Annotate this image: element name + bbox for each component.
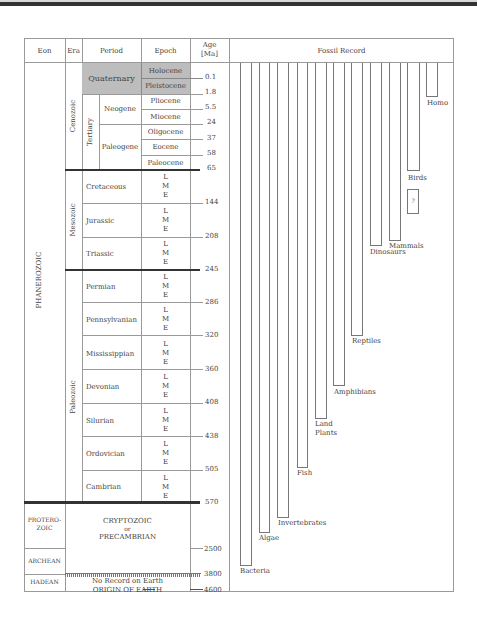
line-408 [82,403,203,404]
line-5.5 [141,109,203,110]
lme-mississippian: LME [141,340,190,367]
lme-cambrian: LME [141,474,190,501]
header-epoch: Epoch [141,47,190,55]
line-505 [82,470,203,471]
age-570: 570 [205,498,218,506]
holocene-divider [141,78,203,79]
bar-homo [426,63,438,97]
birds-uncertain-box: ? [407,189,419,214]
label-bacteria: Bacteria [240,567,270,575]
eon-phanerozoic: PHANEROZOIC [35,245,43,315]
header-eon: Eon [24,47,65,55]
label-amphibians: Amphibians [334,388,376,396]
boundary-570 [24,501,200,504]
eon-archean: ARCHEAN [24,557,65,565]
epoch-pleistocene: Pleistocene [141,82,190,90]
age-0.1: 0.1 [205,73,216,81]
lme-ordovician: LME [141,440,190,467]
no-record-label: No Record on Earth [65,577,190,585]
bar-mammals [389,63,401,241]
period-devonian: Devonian [86,383,119,391]
bar-reptiles [351,63,363,336]
lme-jurassic: LME [141,207,190,234]
line-320 [82,335,203,336]
period-neogene: Neogene [99,105,141,113]
bar-amphibians [333,63,345,386]
lme-triassic: LME [141,240,190,267]
col-line-epoch [190,38,191,592]
lme-devonian: LME [141,373,190,400]
line-58 [141,155,203,156]
line-2500 [24,548,65,549]
origin-of-earth-label: ORIGIN OF EARTH [65,586,190,594]
bar-birds [407,63,420,171]
cryptozoic-label: CRYPTOZOIC [65,517,190,525]
era-cenozoic: Cenozoic [69,91,77,141]
age-208: 208 [205,232,218,240]
bar-fish [297,63,308,468]
label-birds: Birds [408,174,427,182]
lme-pennsylvanian: LME [141,306,190,333]
line-360 [82,369,203,370]
label-fish: Fish [297,469,312,477]
era-tertiary: Tertiary [86,109,94,155]
age-3800: 3800 [204,570,222,578]
cryptozoic-or: or [65,525,190,533]
lme-silurian: LME [141,407,190,434]
line-208 [82,237,203,238]
age-360: 360 [205,365,218,373]
eon-proterozoic-line2: ZOIC [24,524,65,532]
period-ordovician: Ordovician [86,450,125,458]
bar-land-plants [315,63,327,419]
age-4600: 4600 [204,586,222,594]
col-line-eon [65,38,66,592]
line-438 [82,436,203,437]
line-1.8 [82,94,203,95]
age-24: 24 [207,118,216,126]
epoch-oligocene: Oligocene [141,128,190,136]
label-algae: Algae [259,534,279,542]
lme-permian: LME [141,273,190,300]
age-286: 286 [205,298,218,306]
age-245: 245 [205,265,218,273]
header-age-line2: [Ma] [190,50,229,58]
boundary-65 [65,169,200,171]
epoch-pliocene: Pliocene [141,97,190,105]
period-permian: Permian [86,283,115,291]
line-144 [82,203,203,204]
lme-cretaceous: LME [141,173,190,200]
age-408: 408 [205,398,218,406]
period-quaternary: Quaternary [82,75,141,83]
age-37: 37 [207,134,216,142]
label-land-plants-line1: Land [315,420,333,428]
line-286 [82,302,203,303]
period-pennsylvanian: Pennsylvanian [86,316,137,324]
period-triassic: Triassic [86,250,114,258]
header-fossil-record: Fossil Record [229,47,454,55]
col-line-age [229,38,230,592]
bar-invertebrates [277,63,289,518]
label-mammals: Mammals [389,242,424,250]
age-2500: 2500 [204,545,222,553]
header-age-line1: Age [190,41,229,49]
header-era: Era [65,47,82,55]
age-438: 438 [205,432,218,440]
age-1.8: 1.8 [205,88,216,96]
epoch-paleocene: Paleocene [141,159,190,167]
period-mississippian: Mississippian [86,350,134,358]
line-37 [141,139,203,140]
label-land-plants-line2: Plants [315,429,337,437]
age-5.5: 5.5 [205,103,216,111]
precambrian-label: PRECAMBRIAN [65,533,190,541]
line-4600-right [190,589,203,590]
line-2500-tick [190,548,203,549]
eon-hadean: HADEAN [24,578,65,586]
age-65: 65 [207,164,216,172]
line-24 [99,124,203,125]
bar-algae [259,63,270,533]
boundary-245 [65,269,200,271]
age-144: 144 [205,198,218,206]
period-cretaceous: Cretaceous [86,183,126,191]
header-period: Period [82,47,141,55]
period-paleogene: Paleogene [99,143,141,151]
